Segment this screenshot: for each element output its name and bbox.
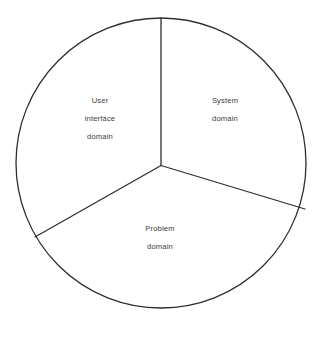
sector-label-line: interface bbox=[60, 110, 140, 128]
sector-label-problem-domain: Problem domain bbox=[120, 220, 200, 256]
sector-label-line: domain bbox=[185, 110, 265, 128]
sector-label-line: Problem bbox=[120, 220, 200, 238]
sector-label-system-domain: System domain bbox=[185, 92, 265, 128]
sector-label-line: User bbox=[60, 92, 140, 110]
sector-label-line: System bbox=[185, 92, 265, 110]
sector-label-line: domain bbox=[120, 238, 200, 256]
domain-partition-diagram: User interface domain System domain Prob… bbox=[0, 0, 323, 337]
domain-circle-graphic bbox=[0, 0, 323, 337]
sector-label-user-interface-domain: User interface domain bbox=[60, 92, 140, 146]
sector-label-line: domain bbox=[60, 128, 140, 146]
